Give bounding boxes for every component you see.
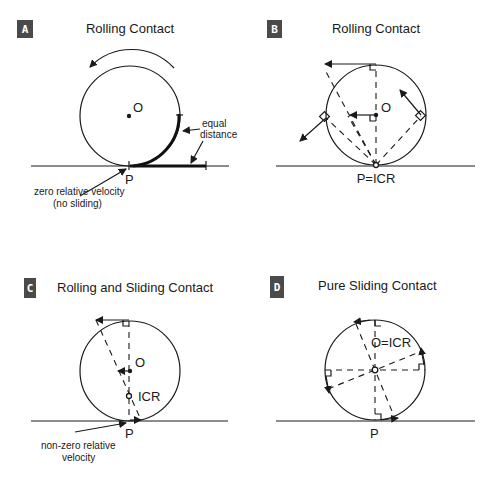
icr-point-b: [374, 163, 379, 168]
equal-arrow-arc: [183, 129, 200, 131]
velocity-arrow-right: [400, 90, 421, 115]
equal-arrow-ground: [191, 141, 203, 163]
velocity-arrow-left: [300, 118, 326, 141]
velocity-arrow-left-d: [326, 376, 329, 393]
right-angle-left-d: [325, 370, 331, 376]
svg-text:D: D: [274, 281, 281, 294]
panel-b-title: Rolling Contact: [332, 21, 421, 36]
zero-velocity-note-line1: zero relative velocity: [34, 186, 125, 197]
zero-velocity-note-line2: (no sliding): [53, 198, 102, 209]
right-angle-bottom-d: [375, 414, 381, 420]
center-label-d: O=ICR: [371, 335, 411, 350]
rotation-arrow-icon: [90, 49, 174, 68]
panel-b-badge: B: [267, 20, 282, 38]
panel-a-title: Rolling Contact: [86, 21, 175, 36]
svg-text:A: A: [22, 23, 29, 36]
contact-label-d: P: [370, 426, 379, 441]
panel-b-rolling-contact: B Rolling Contact O P=ICR: [267, 20, 475, 186]
dash-to-right-b: [376, 116, 421, 165]
svg-text:C: C: [27, 282, 34, 295]
dash-to-center-b: [348, 116, 376, 165]
panel-a-rolling-contact: A Rolling Contact O P equal distance zer…: [17, 20, 238, 209]
panel-c-rolling-sliding-contact: C Rolling and Sliding Contact O ICR P no…: [24, 278, 228, 463]
icr-point-c: [127, 394, 132, 399]
center-point-b: [374, 113, 378, 117]
center-point-a: [127, 114, 131, 118]
dash-through-icr-c: [96, 320, 141, 420]
center-label-a: O: [133, 100, 143, 115]
panel-d-badge: D: [270, 276, 284, 298]
equal-label-line2: distance: [200, 129, 238, 140]
center-icr-point-d: [372, 367, 378, 373]
contact-label-a: P: [125, 172, 134, 187]
panel-d-title: Pure Sliding Contact: [318, 278, 437, 293]
right-angle-top-d: [375, 320, 381, 326]
panel-d-pure-sliding-contact: D Pure Sliding Contact O=ICR P: [270, 276, 475, 441]
non-zero-velocity-note-line2: velocity: [62, 452, 95, 463]
right-angle-right-b: [416, 111, 426, 121]
icr-label-c: ICR: [138, 389, 160, 404]
panel-c-badge: C: [24, 278, 36, 298]
center-label-c: O: [135, 355, 145, 370]
non-zero-velocity-note-line1: non-zero relative: [41, 440, 116, 451]
contact-label-b: P=ICR: [357, 171, 396, 186]
equal-label-line1: equal: [202, 118, 226, 129]
svg-text:B: B: [271, 23, 278, 36]
center-label-b: O: [381, 100, 391, 115]
contact-label-c: P: [125, 426, 134, 441]
rolled-arc: [133, 114, 179, 166]
contact-diagram-figure: A Rolling Contact O P equal distance zer…: [0, 0, 503, 479]
panel-c-title: Rolling and Sliding Contact: [57, 280, 213, 295]
panel-a-badge: A: [17, 20, 33, 38]
center-point-c: [128, 369, 132, 373]
non-zero-velocity-arrow: [75, 423, 126, 432]
